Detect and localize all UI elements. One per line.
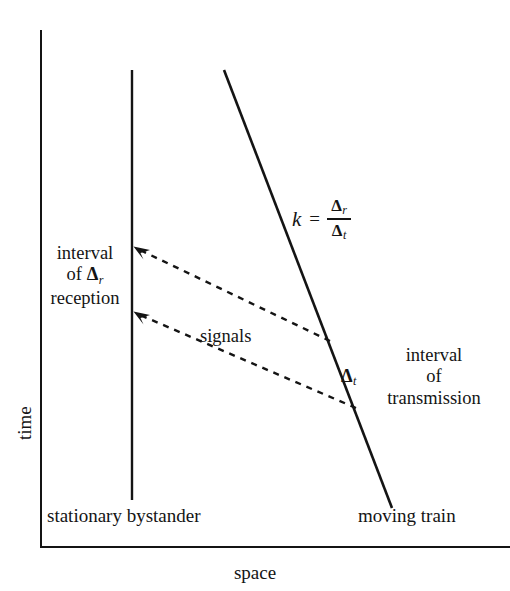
k-denominator: Δt	[330, 221, 349, 242]
signal-upper-arrowhead	[134, 247, 151, 260]
k-numerator-subscript: r	[342, 203, 347, 217]
delta-r-symbol: Δr	[87, 264, 104, 284]
delta-r-glyph: Δ	[87, 264, 99, 284]
transmission-interval-annotation: interval of transmission	[368, 345, 500, 409]
delta-r-subscript: r	[99, 273, 104, 287]
train-worldline-caption: moving train	[358, 505, 456, 527]
transmission-line-2: of	[368, 366, 500, 387]
signals-label: signals	[200, 326, 251, 347]
train-worldline	[224, 70, 392, 508]
k-numerator: Δr	[329, 196, 349, 217]
delta-t-symbol: Δt	[341, 366, 356, 389]
k-fraction: Δr Δt	[327, 196, 351, 242]
spacetime-diagram: time space stationary bystander moving t…	[0, 0, 510, 591]
reception-line-2: of	[67, 264, 82, 284]
reception-line-1: interval	[38, 243, 132, 264]
y-axis-title: time	[14, 406, 36, 440]
k-denominator-glyph: Δ	[332, 221, 343, 240]
reception-line-2-row: of Δr	[38, 264, 132, 287]
signal-lower-arrowhead	[134, 312, 151, 325]
k-numerator-glyph: Δ	[331, 196, 342, 215]
bystander-worldline-caption: stationary bystander	[47, 505, 201, 527]
k-variable: k	[292, 207, 302, 231]
delta-t-subscript: t	[353, 374, 356, 388]
x-axis-title: space	[0, 562, 510, 584]
reception-line-3: reception	[38, 288, 132, 309]
fraction-bar	[327, 218, 351, 219]
k-equals-sign: =	[307, 208, 322, 230]
delta-t-glyph: Δ	[341, 366, 353, 386]
k-formula: k = Δr Δt	[292, 196, 351, 242]
transmission-line-3: transmission	[368, 388, 500, 409]
transmission-line-1: interval	[368, 345, 500, 366]
reception-interval-annotation: interval of Δr reception	[38, 243, 132, 309]
k-denominator-subscript: t	[343, 228, 346, 242]
